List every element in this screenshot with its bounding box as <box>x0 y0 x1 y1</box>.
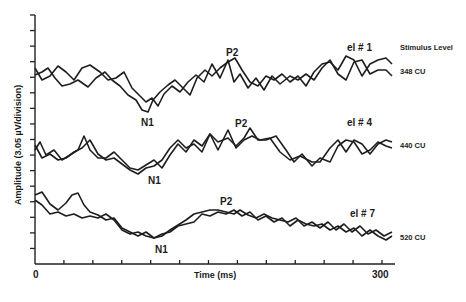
y-axis-ticks <box>30 15 35 248</box>
trace-panel1-a <box>35 56 392 112</box>
panel3-stimulus-level: 520 CU <box>400 233 425 242</box>
panel2-electrode-label: el # 4 <box>347 117 372 128</box>
panel1-p2-label: P2 <box>226 47 238 58</box>
legend-header: Stimulus Level <box>400 43 453 52</box>
panel2-stimulus-level: 440 CU <box>400 141 425 150</box>
x-tick-300: 300 <box>372 269 389 280</box>
panel1-electrode-label: el # 1 <box>347 42 372 53</box>
trace-panel1-b <box>35 60 392 106</box>
panel2-p2-label: P2 <box>235 118 247 129</box>
erp-chart <box>0 0 466 302</box>
panel3-n1-label: N1 <box>155 244 168 255</box>
trace-panel3-b <box>35 200 392 240</box>
panel3-p2-label: P2 <box>220 196 232 207</box>
y-axis-label: Amplitude (3.05 µV/division) <box>13 85 23 205</box>
panel1-n1-label: N1 <box>141 117 154 128</box>
x-tick-0: 0 <box>33 269 39 280</box>
panel1-stimulus-level: 348 CU <box>400 67 425 76</box>
trace-panel2-a <box>35 128 392 170</box>
panel3-electrode-label: el # 7 <box>350 208 375 219</box>
panel2-n1-label: N1 <box>148 175 161 186</box>
x-axis-label: Time (ms) <box>194 270 236 280</box>
traces <box>35 56 392 240</box>
